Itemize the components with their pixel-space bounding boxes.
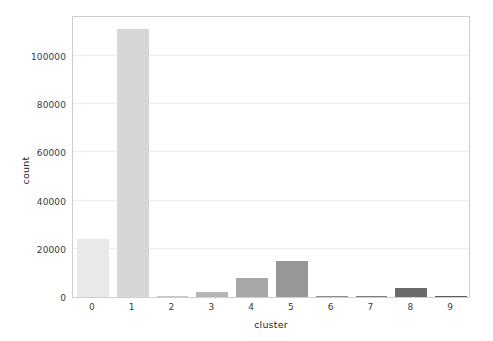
y-tick-label: 80000 xyxy=(0,100,66,110)
bar[interactable] xyxy=(356,296,388,297)
x-tick-label: 7 xyxy=(351,302,391,312)
x-tick-label: 5 xyxy=(271,302,311,312)
y-tick-label: 0 xyxy=(0,293,66,303)
x-tick-label: 4 xyxy=(231,302,271,312)
bar-chart-figure: count 020000400006000080000100000 012345… xyxy=(0,0,493,341)
y-tick-label: 60000 xyxy=(0,148,66,158)
x-tick-label: 1 xyxy=(112,302,152,312)
x-tick-label: 9 xyxy=(430,302,470,312)
x-tick-label: 3 xyxy=(191,302,231,312)
bar[interactable] xyxy=(276,261,308,297)
y-tick-label: 20000 xyxy=(0,245,66,255)
bar[interactable] xyxy=(117,29,149,297)
bar[interactable] xyxy=(157,296,189,297)
x-tick-label: 8 xyxy=(390,302,430,312)
x-tick-label: 2 xyxy=(152,302,192,312)
y-tick-label: 40000 xyxy=(0,197,66,207)
y-tick-label: 100000 xyxy=(0,52,66,62)
bar[interactable] xyxy=(196,292,228,297)
y-axis-label-text: count xyxy=(21,157,32,185)
bar[interactable] xyxy=(395,288,427,297)
plot-area xyxy=(72,16,470,298)
bar[interactable] xyxy=(77,239,109,297)
x-tick-label: 0 xyxy=(72,302,112,312)
x-tick-label: 6 xyxy=(311,302,351,312)
bar[interactable] xyxy=(236,278,268,297)
x-axis-label: cluster xyxy=(72,319,470,330)
bar[interactable] xyxy=(316,296,348,297)
bar[interactable] xyxy=(435,296,467,297)
